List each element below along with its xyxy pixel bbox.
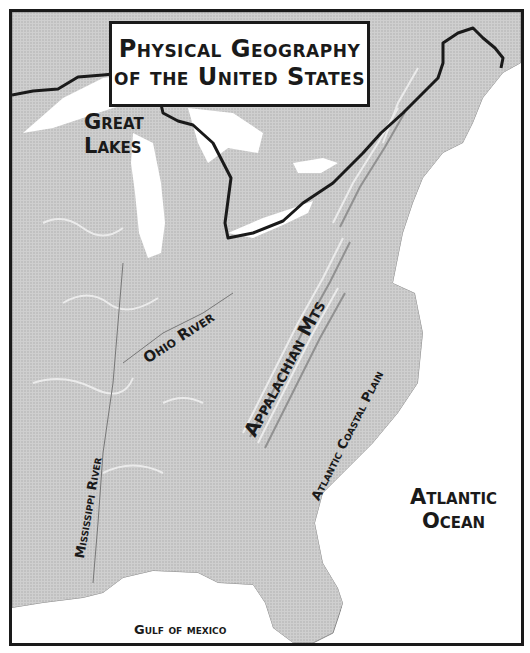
label-great-lakes: Great Lakes (84, 110, 144, 158)
title-line-1: Physical Geography (119, 36, 360, 64)
label-gulf-of-mexico: Gulf of mexico (134, 622, 226, 637)
map-frame: Physical Geography of the United States … (9, 9, 524, 646)
map-title: Physical Geography of the United States (109, 21, 370, 107)
label-ocean: Ocean (410, 509, 497, 533)
label-atlantic-ocean: Atlantic Ocean (410, 485, 497, 533)
label-atlantic: Atlantic (410, 485, 497, 509)
label-lakes: Lakes (84, 134, 144, 158)
title-line-2: of the United States (114, 64, 365, 92)
label-great: Great (84, 110, 144, 134)
